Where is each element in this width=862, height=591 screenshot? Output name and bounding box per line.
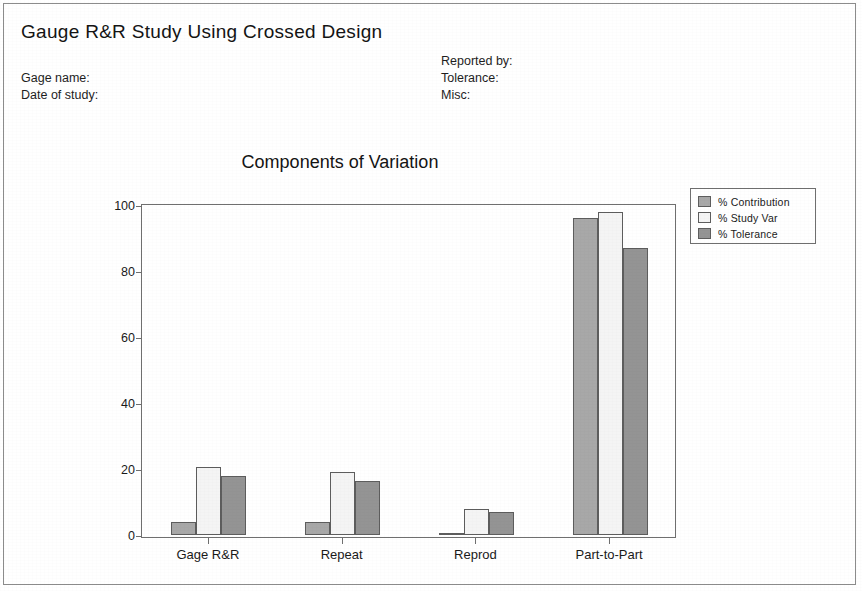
bar-reprod--study-var bbox=[464, 509, 489, 535]
bar-reprod--tolerance bbox=[489, 512, 514, 535]
x-axis-tick-mark bbox=[208, 538, 209, 544]
bar-repeat--contribution bbox=[305, 522, 330, 535]
y-axis-tick-mark bbox=[136, 470, 141, 471]
legend-swatch-icon bbox=[698, 228, 711, 239]
y-axis-tick-mark bbox=[136, 536, 141, 537]
bar-gage-r-r--study-var bbox=[196, 467, 221, 535]
legend-swatch-icon bbox=[698, 196, 711, 207]
y-axis-tick-label: 80 bbox=[121, 265, 135, 279]
legend-label: % Contribution bbox=[718, 196, 790, 208]
y-axis-tick-label: 0 bbox=[128, 529, 135, 543]
legend-item: % Contribution bbox=[698, 194, 815, 209]
legend-swatch-icon bbox=[698, 212, 711, 223]
chart-title: Components of Variation bbox=[4, 152, 676, 173]
bar-reprod--contribution bbox=[439, 533, 464, 535]
components-of-variation-chart: Components of Variation 020406080100 Gag… bbox=[4, 4, 857, 586]
y-axis-tick-label: 20 bbox=[121, 463, 135, 477]
bar-part-to-part--contribution bbox=[573, 218, 598, 535]
y-axis-tick-mark bbox=[136, 206, 141, 207]
bar-part-to-part--tolerance bbox=[623, 248, 648, 535]
chart-legend: % Contribution% Study Var% Tolerance bbox=[690, 188, 816, 244]
report-page: Gauge R&R Study Using Crossed Design Gag… bbox=[3, 3, 856, 585]
y-axis-labels: 020406080100 bbox=[99, 204, 135, 538]
bar-repeat--tolerance bbox=[355, 481, 380, 535]
legend-item: % Study Var bbox=[698, 210, 815, 225]
legend-label: % Study Var bbox=[718, 212, 778, 224]
y-axis-tick-mark bbox=[136, 338, 141, 339]
y-axis-tick-mark bbox=[136, 404, 141, 405]
y-axis-tick-label: 100 bbox=[114, 199, 135, 213]
bar-gage-r-r--tolerance bbox=[221, 476, 246, 535]
bar-repeat--study-var bbox=[330, 472, 355, 535]
x-axis-tick-mark bbox=[342, 538, 343, 544]
bar-gage-r-r--contribution bbox=[171, 522, 196, 535]
y-axis-tick-label: 40 bbox=[121, 397, 135, 411]
legend-label: % Tolerance bbox=[718, 228, 778, 240]
x-axis-tick-mark bbox=[609, 538, 610, 544]
x-axis-tick-mark bbox=[475, 538, 476, 544]
x-axis-tick-label: Reprod bbox=[454, 547, 497, 562]
y-axis-tick-mark bbox=[136, 272, 141, 273]
legend-item: % Tolerance bbox=[698, 226, 815, 241]
plot-frame bbox=[141, 204, 676, 538]
x-axis-tick-label: Part-to-Part bbox=[576, 547, 643, 562]
bar-part-to-part--study-var bbox=[598, 212, 623, 535]
x-axis-tick-label: Gage R&R bbox=[176, 547, 239, 562]
y-axis-tick-label: 60 bbox=[121, 331, 135, 345]
x-axis-tick-label: Repeat bbox=[321, 547, 363, 562]
plot-inner bbox=[142, 205, 675, 537]
